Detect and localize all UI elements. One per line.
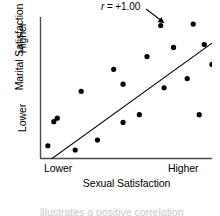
data-point [191,21,196,26]
data-point [55,116,60,121]
data-point [111,67,116,72]
x-axis-tick-lower: Lower [44,162,72,174]
y-axis-tick-higher: Higher [16,14,28,62]
regression-line [46,18,220,162]
data-point [202,42,207,47]
scatter-plot-figure: r = +1.00 Marital Satisfaction Higher Lo… [0,0,220,216]
x-axis-tick-higher: Higher [168,162,198,174]
data-point [197,112,202,117]
data-point [158,23,163,28]
data-point [120,82,125,87]
cropped-caption-text: illustrates a positive correlation [40,207,184,216]
data-point [120,120,125,125]
data-point [162,85,167,90]
data-point [73,147,78,152]
data-point [45,143,50,148]
data-point [137,112,142,117]
data-point-group [45,21,214,152]
x-axis-title: Sexual Satisfaction [40,177,213,189]
correlation-annotation: r = +1.00 [101,1,140,12]
axis-frame [40,17,212,159]
data-point [171,45,176,50]
data-point [144,54,149,59]
cropped-caption: illustrates a positive correlation [0,207,220,216]
data-point [79,89,84,94]
y-axis-tick-lower: Lower [16,94,28,142]
data-point [209,62,214,67]
data-point [185,76,190,81]
data-point [95,138,100,143]
correlation-value: = +1.00 [104,1,140,12]
annotation-arrow [146,9,165,23]
